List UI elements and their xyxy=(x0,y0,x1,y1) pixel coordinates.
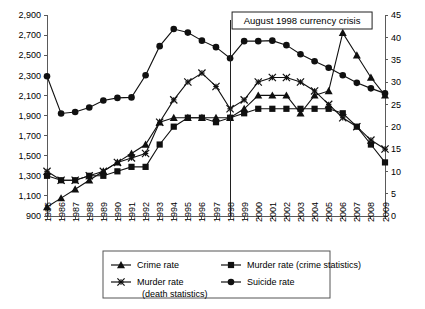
x-axis-tick-label: 2000 xyxy=(254,202,264,222)
data-point-marker xyxy=(325,87,333,94)
y-axis-right-tick-label: 30 xyxy=(391,77,401,87)
y-axis-right-tick-label: 15 xyxy=(391,144,401,154)
data-point-marker xyxy=(325,64,332,71)
data-point-marker xyxy=(367,74,375,81)
data-point-marker xyxy=(339,29,347,36)
y-axis-right-tick-label: 45 xyxy=(391,10,401,20)
data-point-marker xyxy=(170,26,177,33)
y-axis-right-tick-label: 20 xyxy=(391,122,401,132)
data-point-marker xyxy=(311,106,317,112)
data-point-marker xyxy=(171,124,177,130)
x-axis-tick-label: 1986 xyxy=(57,202,67,222)
series-murder-rate-death-statistics xyxy=(43,69,388,183)
y-axis-left-tick-label: 2,500 xyxy=(18,50,41,60)
data-point-marker xyxy=(156,43,163,50)
data-point-marker xyxy=(114,95,121,102)
data-point-marker xyxy=(72,109,79,116)
data-point-marker xyxy=(213,119,219,125)
y-axis-left-tick-label: 2,900 xyxy=(18,10,41,20)
y-axis-right-tick-label: 35 xyxy=(391,55,401,65)
data-point-marker xyxy=(128,164,134,170)
y-axis-left-tick-label: 2,100 xyxy=(18,91,41,101)
legend-label: Murder rate xyxy=(137,277,184,287)
data-point-marker xyxy=(354,80,361,87)
x-axis-tick-label: 2001 xyxy=(268,202,278,222)
legend-label: Suicide rate xyxy=(247,277,295,287)
data-point-marker xyxy=(269,106,275,112)
y-axis-right-tick-label: 40 xyxy=(391,33,401,43)
data-point-marker xyxy=(114,168,120,174)
series-suicide-rate xyxy=(44,26,389,117)
data-point-marker xyxy=(185,29,192,36)
data-point-marker xyxy=(382,159,388,165)
data-point-marker xyxy=(255,106,261,112)
data-point-marker xyxy=(297,106,303,112)
x-axis-tick-label: 1997 xyxy=(212,202,222,222)
chart-container: 9001,1001,3001,5001,7001,9002,1002,3002,… xyxy=(0,0,425,309)
data-point-marker xyxy=(382,90,389,97)
y-axis-left: 9001,1001,3001,5001,7001,9002,1002,3002,… xyxy=(18,10,47,221)
x-axis-tick-label: 2003 xyxy=(296,202,306,222)
legend-marker-square xyxy=(228,262,234,268)
annotation-label: August 1998 currency crisis xyxy=(244,15,361,26)
x-axis-tick-label: 1991 xyxy=(127,202,137,222)
data-point-marker xyxy=(353,51,361,58)
data-point-marker xyxy=(368,85,375,92)
data-point-marker xyxy=(100,97,107,104)
x-axis-tick-label: 2008 xyxy=(366,202,376,222)
data-point-marker xyxy=(311,58,318,65)
x-axis-tick-label: 1994 xyxy=(169,202,179,222)
x-axis-tick-label: 2004 xyxy=(310,202,320,222)
x-axis-tick-label: 2002 xyxy=(282,202,292,222)
data-point-marker xyxy=(199,115,205,121)
data-point-marker xyxy=(213,44,220,51)
legend-label-line2: (death statistics) xyxy=(142,289,208,299)
x-axis-tick-label: 2009 xyxy=(381,202,391,222)
legend-label: Murder rate (crime statistics) xyxy=(247,260,361,270)
x-axis: 1985198619871988198919901991199219931994… xyxy=(43,202,391,222)
y-axis-right-tick-label: 25 xyxy=(391,100,401,110)
x-axis-tick-label: 1996 xyxy=(197,202,207,222)
y-axis-left-tick-label: 1,900 xyxy=(18,111,41,121)
legend-marker-circle xyxy=(228,279,235,286)
y-axis-left-tick-label: 1,500 xyxy=(18,151,41,161)
y-axis-left-tick-label: 900 xyxy=(26,211,41,221)
x-axis-tick-label: 1993 xyxy=(155,202,165,222)
data-point-marker xyxy=(255,38,262,45)
y-axis-left-tick-label: 2,700 xyxy=(18,30,41,40)
dual-axis-line-chart: 9001,1001,3001,5001,7001,9002,1002,3002,… xyxy=(0,0,425,309)
data-point-marker xyxy=(142,164,148,170)
data-point-marker xyxy=(185,115,191,121)
x-axis-tick-label: 1987 xyxy=(71,202,81,222)
data-point-marker xyxy=(339,72,346,79)
y-axis-right-tick-label: 5 xyxy=(391,189,396,199)
x-axis-tick-label: 1989 xyxy=(99,202,109,222)
y-axis-left-tick-label: 2,300 xyxy=(18,71,41,81)
data-point-marker xyxy=(57,194,65,201)
x-axis-tick-label: 2007 xyxy=(352,202,362,222)
x-axis-tick-label: 1988 xyxy=(85,202,95,222)
series-line xyxy=(47,29,385,113)
x-axis-tick-label: 1995 xyxy=(183,202,193,222)
legend-box xyxy=(103,251,330,298)
x-axis-tick-label: 1999 xyxy=(240,202,250,222)
data-point-marker xyxy=(58,110,65,117)
data-point-marker xyxy=(199,37,206,44)
y-axis-left-tick-label: 1,100 xyxy=(18,191,41,201)
y-axis-right: 051015202530354045 xyxy=(385,10,401,221)
legend-label: Crime rate xyxy=(137,260,179,270)
data-point-marker xyxy=(283,42,290,49)
data-point-marker xyxy=(71,185,79,192)
y-axis-right-tick-label: 0 xyxy=(391,211,396,221)
x-axis-tick-label: 2005 xyxy=(324,202,334,222)
legend: Crime rateMurder rate (crime statistics)… xyxy=(103,251,361,299)
data-point-marker xyxy=(241,38,248,45)
data-point-marker xyxy=(283,106,289,112)
data-point-marker xyxy=(297,51,304,58)
y-axis-left-tick-label: 1,700 xyxy=(18,131,41,141)
x-axis-tick-label: 2006 xyxy=(338,202,348,222)
y-axis-right-tick-label: 10 xyxy=(391,167,401,177)
data-point-marker xyxy=(44,73,51,80)
data-point-marker xyxy=(128,94,135,101)
x-axis-tick-label: 1990 xyxy=(113,202,123,222)
